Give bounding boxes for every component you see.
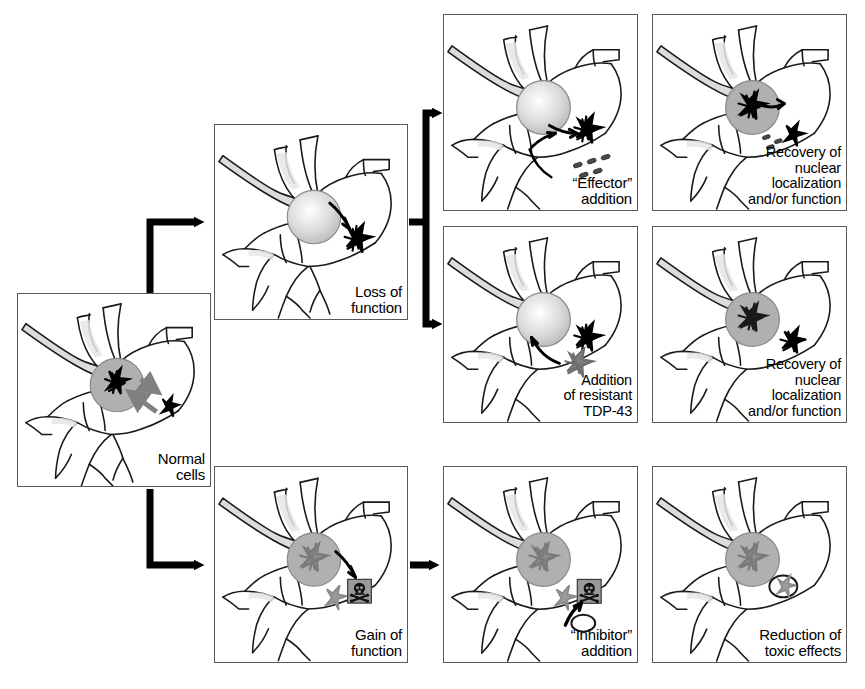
panel-label-loss-of-function: Loss of function [351, 284, 402, 316]
panel-label-gain-of-function: Gain of function [351, 627, 402, 659]
panel-inhibitor-addition: “Inhibitor” addition [443, 466, 638, 663]
panel-recovery-middle: Recovery of nuclear localization and/or … [652, 226, 847, 423]
panel-label-normal-cells: Normal cells [158, 451, 205, 483]
connector-loss-split [409, 113, 433, 324]
connector-normal-to-gain [150, 489, 195, 565]
panel-reduction-toxic-effects: Reduction of toxic effects [652, 466, 847, 663]
panel-label-reduction-toxic-effects: Reduction of toxic effects [759, 627, 841, 659]
panel-resistant-tdp43-addition: Addition of resistant TDP-43 [443, 226, 638, 423]
panel-recovery-top: Recovery of nuclear localization and/or … [652, 14, 847, 211]
panel-gain-of-function: Gain of function [214, 466, 408, 663]
figure-canvas: Normal cells [0, 0, 865, 689]
panel-loss-of-function: Loss of function [214, 124, 408, 320]
panel-label-recovery-top: Recovery of nuclear localization and/or … [748, 145, 841, 207]
panel-label-inhibitor-addition: “Inhibitor” addition [571, 627, 632, 659]
panel-label-recovery-middle: Recovery of nuclear localization and/or … [748, 357, 841, 419]
panel-normal-cells: Normal cells [17, 293, 211, 487]
panel-label-resistant-tdp43-addition: Addition of resistant TDP-43 [563, 373, 632, 420]
panel-label-effector-addition: “Effector” addition [573, 175, 632, 207]
panel-effector-addition: “Effector” addition [443, 14, 638, 211]
connector-normal-to-loss [150, 222, 195, 293]
